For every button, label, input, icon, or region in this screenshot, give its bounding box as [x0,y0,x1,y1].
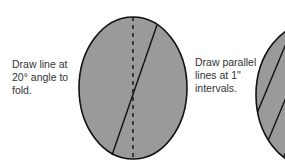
instruction-line: fold. [12,84,68,97]
oval-step1 [79,17,187,159]
instruction-step1: Draw line at 20° angle to fold. [12,58,68,97]
instruction-line: 20° angle to [12,71,68,84]
instruction-step2: Draw parallel lines at 1" intervals. [195,56,256,95]
instruction-line: lines at 1" [195,69,256,82]
instruction-line: Draw line at [12,58,68,71]
instruction-line: Draw parallel [195,56,256,69]
instruction-line: intervals. [195,82,256,95]
